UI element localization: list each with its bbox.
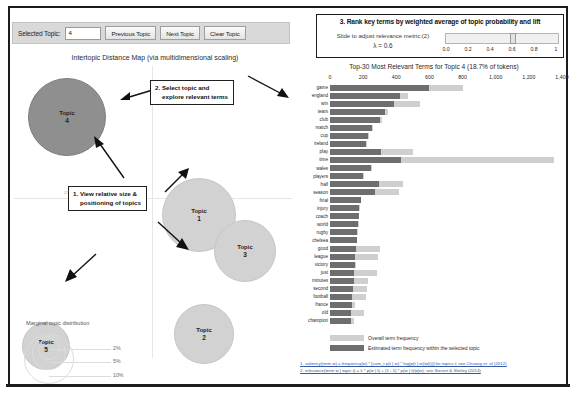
- bar-term-label: rugby: [268, 229, 328, 236]
- bar-row[interactable]: france: [300, 301, 568, 308]
- bar-row[interactable]: old: [300, 309, 568, 316]
- topic-bubble-3[interactable]: Topic3: [214, 220, 276, 282]
- bar-topic-frequency: [330, 310, 351, 316]
- relevance-slider[interactable]: [445, 33, 559, 45]
- legend-label-topic: Estimated term frequency within the sele…: [368, 345, 479, 351]
- topic-controls-bar: Selected Topic: 4 Previous Topic Next To…: [12, 22, 290, 44]
- bar-term-label: play: [268, 148, 328, 155]
- bar-row[interactable]: champion: [300, 317, 568, 324]
- bar-topic-frequency: [330, 101, 394, 107]
- bar-topic-frequency: [330, 254, 355, 260]
- bar-row[interactable]: team: [300, 108, 568, 115]
- bar-topic-frequency: [330, 302, 352, 308]
- bar-row[interactable]: ireland: [300, 140, 568, 147]
- map-vertical-axis: [152, 66, 153, 358]
- relevance-slider-label: Slide to adjust relevance metric:(2) λ =…: [321, 32, 445, 50]
- legend-label-overall: Overall term frequency: [368, 335, 419, 341]
- slider-handle[interactable]: [510, 33, 516, 44]
- marginal-distribution-legend: 2% 5% 10%: [20, 328, 150, 386]
- bar-term-label: champion: [268, 317, 328, 324]
- bar-topic-frequency: [330, 149, 381, 155]
- bar-topic-frequency: [330, 141, 366, 147]
- slider-tick-0: 0.0: [442, 46, 449, 52]
- clear-topic-button[interactable]: Clear Topic: [204, 26, 246, 40]
- bar-term-label: match: [268, 124, 328, 131]
- footnote-relevance[interactable]: 2. relevance(term w | topic t) = λ * p(w…: [300, 367, 562, 374]
- bar-term-label: game: [268, 84, 328, 91]
- bar-row[interactable]: good: [300, 245, 568, 252]
- slider-tick-2: 0.4: [486, 46, 493, 52]
- bubble-topic-word: Topic: [191, 207, 207, 215]
- bar-term-label: ireland: [268, 140, 328, 147]
- bar-row[interactable]: injury: [300, 205, 568, 212]
- map-horizontal-axis: [14, 198, 292, 199]
- bar-row[interactable]: england: [300, 92, 568, 99]
- bar-term-label: victory: [268, 261, 328, 268]
- marginal-pct-5: 5%: [113, 358, 121, 364]
- x-tick-1: 200: [359, 74, 368, 80]
- slider-track[interactable]: [445, 33, 559, 44]
- previous-topic-button[interactable]: Previous Topic: [105, 26, 156, 40]
- legend-swatch-overall: [330, 335, 364, 341]
- slider-tick-1: 0.2: [464, 46, 471, 52]
- bar-topic-frequency: [330, 181, 379, 187]
- bar-row[interactable]: win: [300, 100, 568, 107]
- bubble-topic-word: Topic: [196, 326, 212, 334]
- bar-topic-frequency: [330, 125, 372, 131]
- bar-row[interactable]: half: [300, 181, 568, 188]
- next-topic-button[interactable]: Next Topic: [160, 26, 200, 40]
- bar-term-label: league: [268, 253, 328, 260]
- bar-row[interactable]: league: [300, 253, 568, 260]
- bar-topic-frequency: [330, 221, 358, 227]
- footnote-saliency[interactable]: 1. saliency(term w) = frequency(w) * [su…: [300, 360, 562, 367]
- x-tick-2: 400: [392, 74, 401, 80]
- bar-term-label: wales: [268, 165, 328, 172]
- bar-row[interactable]: coach: [300, 213, 568, 220]
- bar-term-label: injury: [268, 205, 328, 212]
- bar-topic-frequency: [330, 286, 353, 292]
- bar-term-label: football: [268, 293, 328, 300]
- selected-topic-input[interactable]: 4: [65, 27, 101, 40]
- bar-term-label: coach: [268, 213, 328, 220]
- selected-topic-label: Selected Topic:: [18, 30, 60, 37]
- bar-term-label: season: [268, 189, 328, 196]
- bar-row[interactable]: world: [300, 221, 568, 228]
- bar-row[interactable]: rugby: [300, 229, 568, 236]
- bar-row[interactable]: victory: [300, 261, 568, 268]
- bar-row[interactable]: second: [300, 285, 568, 292]
- bar-row[interactable]: just: [300, 269, 568, 276]
- arrow-to-topic1: [162, 166, 192, 196]
- bar-row[interactable]: time: [300, 156, 568, 163]
- bar-chart-bars: gameenglandwinteamclubmatchcupirelandpla…: [300, 84, 568, 324]
- bar-row[interactable]: football: [300, 293, 568, 300]
- bar-row[interactable]: chelsea: [300, 237, 568, 244]
- bar-row[interactable]: minutes: [300, 277, 568, 284]
- bar-row[interactable]: final: [300, 197, 568, 204]
- bar-row[interactable]: game: [300, 84, 568, 91]
- bar-row[interactable]: season: [300, 189, 568, 196]
- legend-swatch-topic: [330, 345, 364, 351]
- x-tick-0: 0: [329, 74, 332, 80]
- bar-topic-frequency: [330, 318, 351, 324]
- bar-row[interactable]: wales: [300, 165, 568, 172]
- bar-term-label: team: [268, 108, 328, 115]
- marginal-leader-10: [49, 376, 111, 377]
- bar-term-label: cup: [268, 132, 328, 139]
- ldavis-app: Selected Topic: 4 Previous Topic Next To…: [0, 0, 576, 398]
- bar-term-label: time: [268, 156, 328, 163]
- bubble-topic-number: 4: [65, 117, 69, 125]
- bar-row[interactable]: match: [300, 124, 568, 131]
- topic-bubble-2[interactable]: Topic2: [174, 304, 234, 364]
- bar-topic-frequency: [330, 213, 359, 219]
- bar-row[interactable]: play: [300, 148, 568, 155]
- bar-row[interactable]: cup: [300, 132, 568, 139]
- callout-1-line-1: 1. View relative size &: [73, 190, 141, 199]
- bar-row[interactable]: club: [300, 116, 568, 123]
- bar-topic-frequency: [330, 165, 371, 171]
- slider-tick-4: 0.8: [530, 46, 537, 52]
- bar-row[interactable]: players: [300, 173, 568, 180]
- arrow-to-topic2: [156, 220, 192, 254]
- relevance-metric-panel: 3. Rank key terms by weighted average of…: [316, 14, 564, 58]
- bubble-topic-number: 3: [243, 251, 247, 259]
- bar-term-label: players: [268, 173, 328, 180]
